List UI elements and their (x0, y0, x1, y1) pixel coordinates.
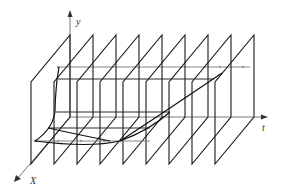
plane-7 (169, 35, 208, 164)
grid-lines (34, 79, 214, 142)
plane-5 (123, 35, 162, 164)
parallel-planes (31, 35, 254, 164)
plane-6 (146, 35, 185, 164)
curve-upper (48, 128, 110, 141)
plane-1 (31, 35, 70, 164)
grid-lines-back (57, 66, 250, 68)
plane-8 (192, 35, 231, 164)
plane-9 (215, 35, 254, 164)
t-axis-arrow-icon (261, 115, 268, 120)
curve-rising (120, 73, 222, 141)
3d-slices-diagram: y t X (0, 0, 284, 189)
y-axis-arrow-icon (68, 10, 73, 17)
plane-4 (100, 35, 139, 164)
y-axis-label: y (75, 16, 81, 27)
x-axis-label: X (29, 175, 37, 186)
t-axis-label: t (262, 122, 265, 133)
